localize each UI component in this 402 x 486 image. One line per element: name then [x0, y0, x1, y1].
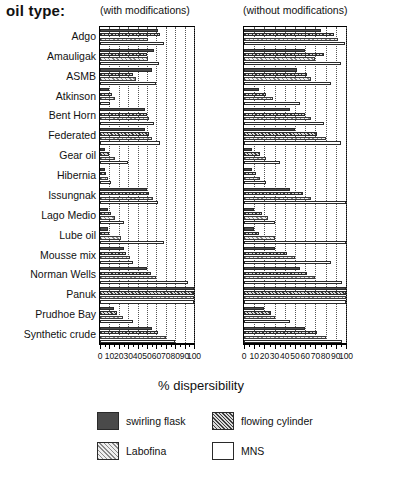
bar-group-federated	[244, 126, 346, 146]
bar-swirling-flask	[244, 327, 305, 330]
bar-group-mousse-mix	[244, 246, 346, 266]
bar-flowing-cylinder	[100, 33, 160, 36]
x-axis-left: 0102030405060708090100	[99, 344, 195, 370]
x-tick-minor-85	[331, 344, 332, 347]
bar-flowing-cylinder	[100, 311, 117, 314]
bar-flowing-cylinder	[244, 192, 303, 195]
x-tick-minor-25	[270, 344, 271, 347]
bar-flowing-cylinder	[100, 53, 147, 56]
bar-flowing-cylinder	[100, 252, 126, 255]
category-label-lube-oil: Lube oil	[59, 229, 96, 241]
bar-labofina	[244, 296, 346, 299]
bar-group-bent-horn	[100, 107, 194, 127]
bar-swirling-flask	[100, 49, 154, 52]
x-tick-minor-95	[189, 344, 190, 347]
bar-swirling-flask	[100, 307, 114, 310]
x-tick-minor-5	[105, 344, 106, 347]
category-label-atkinson: Atkinson	[56, 90, 96, 102]
bar-swirling-flask	[244, 128, 295, 131]
bar-mns	[244, 42, 345, 45]
legend-label-mns: MNS	[241, 445, 264, 457]
bar-mns	[244, 62, 341, 65]
bar-labofina	[100, 236, 121, 239]
bar-labofina	[100, 137, 152, 140]
x-tick-minor-65	[161, 344, 162, 347]
category-label-gear-oil: Gear oil	[59, 149, 96, 161]
bar-mns	[100, 141, 160, 144]
bar-swirling-flask	[244, 68, 297, 71]
bar-flowing-cylinder	[244, 291, 346, 294]
bar-labofina	[100, 296, 194, 299]
bar-flowing-cylinder	[244, 212, 262, 215]
x-tick-minor-75	[171, 344, 172, 347]
x-tick-50	[295, 344, 296, 349]
legend-swatch-mns	[212, 442, 234, 460]
bar-labofina	[100, 216, 115, 219]
bar-flowing-cylinder	[244, 311, 271, 314]
x-axis-title: % dispersibility	[0, 378, 402, 393]
category-label-adgo: Adgo	[71, 30, 96, 42]
bar-mns	[100, 261, 133, 264]
x-tick-minor-95	[341, 344, 342, 347]
bar-group-prudhoe-bay	[244, 305, 346, 325]
legend-swatch-labofina	[97, 442, 119, 460]
bar-group-prudhoe-bay	[100, 305, 194, 325]
x-tick-label-0: 0	[98, 351, 103, 361]
bar-mns	[244, 161, 280, 164]
bar-group-bent-horn	[244, 107, 346, 127]
bar-mns	[100, 102, 110, 105]
x-tick-minor-75	[321, 344, 322, 347]
bar-labofina	[100, 276, 156, 279]
x-tick-label-100: 100	[187, 351, 201, 361]
bar-mns	[100, 201, 158, 204]
bar-labofina	[244, 117, 311, 120]
bar-flowing-cylinder	[100, 73, 133, 76]
bar-group-hibernia	[100, 166, 194, 186]
x-tick-100	[194, 344, 195, 349]
category-label-norman-wells: Norman Wells	[30, 268, 96, 280]
x-tick-label-50: 50	[142, 351, 151, 361]
legend-swatch-swirling-flask	[97, 412, 119, 430]
bar-mns	[244, 221, 275, 224]
x-tick-70	[166, 344, 167, 349]
x-tick-60	[156, 344, 157, 349]
bar-labofina	[244, 77, 311, 80]
bar-swirling-flask	[100, 267, 147, 270]
bar-group-asmb	[244, 67, 346, 87]
bar-swirling-flask	[244, 208, 254, 211]
bar-labofina	[244, 197, 311, 200]
x-tick-30	[275, 344, 276, 349]
bar-labofina	[100, 336, 166, 339]
bar-group-panuk	[244, 285, 346, 305]
x-tick-label-20: 20	[114, 351, 123, 361]
bar-swirling-flask	[244, 227, 254, 230]
bar-group-atkinson	[244, 87, 346, 107]
category-label-synthetic-crude: Synthetic crude	[24, 328, 96, 340]
bar-swirling-flask	[100, 88, 109, 91]
bar-swirling-flask	[244, 49, 305, 52]
bar-labofina	[100, 157, 115, 160]
plot-panel-without-modifications	[243, 26, 347, 344]
bar-swirling-flask	[244, 168, 252, 171]
x-tick-label-70: 70	[161, 351, 170, 361]
bar-swirling-flask	[100, 188, 147, 191]
bar-labofina	[244, 157, 266, 160]
bar-swirling-flask	[244, 188, 290, 191]
bar-flowing-cylinder	[100, 331, 158, 334]
bar-mns	[244, 281, 342, 284]
x-tick-10	[109, 344, 110, 349]
bar-mns	[244, 241, 346, 244]
x-tick-0	[244, 344, 245, 349]
bar-swirling-flask	[244, 108, 290, 111]
bar-labofina	[244, 236, 275, 239]
bar-group-lube-oil	[100, 226, 194, 246]
bar-group-mousse-mix	[100, 246, 194, 266]
bar-labofina	[244, 57, 315, 60]
bar-mns	[100, 300, 194, 303]
x-tick-minor-45	[142, 344, 143, 347]
right-panel-caption: (without modifications)	[243, 4, 347, 16]
bar-group-gear-oil	[100, 146, 194, 166]
x-axis-right: 0102030405060708090100	[243, 344, 347, 370]
x-tick-minor-35	[133, 344, 134, 347]
bar-mns	[244, 320, 290, 323]
